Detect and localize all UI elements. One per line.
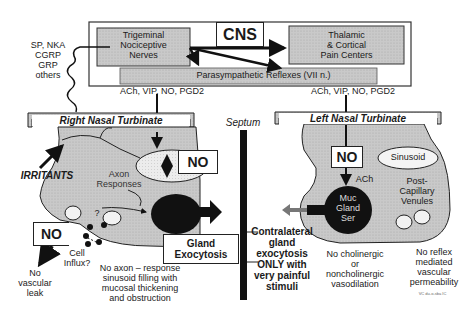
irritants-label: IRRITANTS xyxy=(12,170,82,181)
axon-responses-label: Axon Responses xyxy=(94,170,144,190)
sinusoid-label: Sinusoid xyxy=(380,153,436,163)
no-cholinergic-label: No cholinergic or noncholinergic vasodil… xyxy=(322,250,388,290)
no-box-leak: NO xyxy=(33,222,69,246)
left-mediators: ACh, VIP, NO, PGD2 xyxy=(303,87,403,97)
left-turbinate-title: Left Nasal Turbinate xyxy=(279,113,437,124)
no-axon-response-text: No axon – response sinusoid filling with… xyxy=(90,264,190,304)
no-reflex-label: No reflex mediated vascular permeability xyxy=(404,248,464,288)
parasympathetic-label: Parasympathetic Reflexes (VII n.) xyxy=(150,71,377,81)
no-vascular-leak-label: No vascular leak xyxy=(15,269,55,299)
no-box-left: NO xyxy=(331,146,363,168)
right-turbinate-title: Right Nasal Turbinate xyxy=(32,115,190,126)
septum-label: Septum xyxy=(218,117,268,128)
cell-influx-label: Cell Influx? xyxy=(62,249,92,269)
question-mark: ? xyxy=(92,209,102,219)
right-mediators: ACh, VIP, NO, PGD2 xyxy=(112,87,212,97)
contralateral-label: Contralateral gland exocytosis ONLY with… xyxy=(248,226,316,292)
trigeminal-label: Trigeminal Nociceptive Nerves xyxy=(97,31,190,61)
cns-title: CNS xyxy=(216,22,264,47)
gland-exocytosis-box: Gland Exocytosis xyxy=(163,234,239,264)
post-capillary-label: Post- Capillary Venules xyxy=(392,177,442,207)
ach-label: ACh xyxy=(352,175,377,185)
thalamic-label: Thalamic & Cortical Pain Centers xyxy=(289,31,404,61)
gland-labels: Muc Gland Ser xyxy=(328,194,368,224)
septum-bar xyxy=(240,130,247,300)
no-box-sinusoid: NO xyxy=(178,150,218,174)
credit-text: VC du-o-sba IC xyxy=(405,292,460,296)
neuropeptides-label: SP, NKA CGRP GRP others xyxy=(28,41,68,81)
